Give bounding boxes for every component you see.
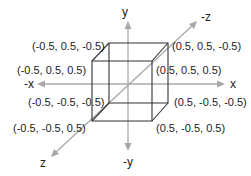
vertex-label-back-top-left: (-0.5, 0.5, -0.5) bbox=[32, 40, 105, 52]
cube-diagram: y -y x -x z -z (-0.5, 0.5, -0.5) (-0.5, … bbox=[0, 0, 251, 176]
neg-x-arrow-icon bbox=[37, 81, 45, 88]
cube-edge bbox=[152, 103, 168, 121]
vertex-label-back-bottom-left: (-0.5, -0.5, -0.5) bbox=[28, 96, 104, 108]
z-axis-label: z bbox=[40, 156, 46, 170]
vertex-label-front-top-right: (0.5, 0.5, 0.5) bbox=[156, 64, 221, 76]
cube-edge bbox=[152, 43, 168, 61]
x-arrow-icon bbox=[217, 81, 225, 88]
x-axis-label: x bbox=[230, 77, 236, 91]
neg-y-arrow-icon bbox=[125, 143, 132, 151]
vertex-label-front-top-left: (-0.5, 0.5, 0.5) bbox=[17, 64, 86, 76]
y-axis-label: y bbox=[122, 5, 128, 19]
vertex-label-front-bottom-left: (-0.5, -0.5, 0.5) bbox=[13, 122, 86, 134]
vertex-label-back-bottom-right: (0.5, -0.5, -0.5) bbox=[174, 96, 247, 108]
vertex-label-back-top-right: (0.5, 0.5, -0.5) bbox=[172, 40, 241, 52]
neg-z-axis-label: -z bbox=[201, 10, 211, 24]
neg-x-axis-label: -x bbox=[24, 77, 34, 91]
neg-y-axis-label: -y bbox=[123, 155, 133, 169]
vertex-label-front-bottom-right: (0.5, -0.5, 0.5) bbox=[156, 122, 225, 134]
cube bbox=[92, 43, 168, 121]
y-arrow-icon bbox=[125, 21, 132, 29]
